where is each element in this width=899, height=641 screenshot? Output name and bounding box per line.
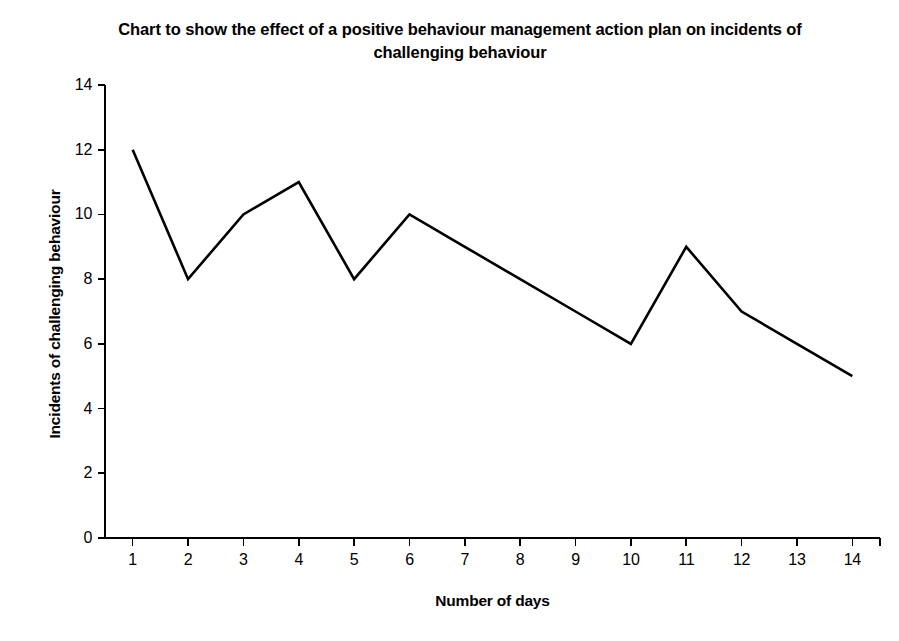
y-tick-label: 0 [52,530,92,546]
x-tick-label: 14 [832,552,872,568]
y-tick-label: 12 [52,142,92,158]
y-tick-label: 2 [52,465,92,481]
y-tick-label: 4 [52,401,92,417]
data-series [133,150,853,377]
x-tick-label: 2 [168,552,208,568]
x-tick-label: 13 [777,552,817,568]
x-tick-marks [133,538,880,546]
x-tick-label: 10 [611,552,651,568]
y-tick-marks [98,85,105,538]
y-tick-label: 8 [52,271,92,287]
x-tick-label: 4 [279,552,319,568]
x-tick-label: 8 [500,552,540,568]
x-tick-label: 5 [334,552,374,568]
line-chart: Chart to show the effect of a positive b… [0,0,899,641]
series-line [133,150,853,377]
x-tick-label: 3 [223,552,263,568]
x-tick-label: 9 [556,552,596,568]
axis-lines [105,85,880,538]
x-tick-label: 11 [666,552,706,568]
x-tick-label: 1 [113,552,153,568]
x-tick-label: 7 [445,552,485,568]
x-tick-label: 6 [389,552,429,568]
y-tick-label: 14 [52,77,92,93]
plot-area [0,0,899,641]
x-tick-label: 12 [722,552,762,568]
y-tick-label: 10 [52,206,92,222]
y-tick-label: 6 [52,336,92,352]
